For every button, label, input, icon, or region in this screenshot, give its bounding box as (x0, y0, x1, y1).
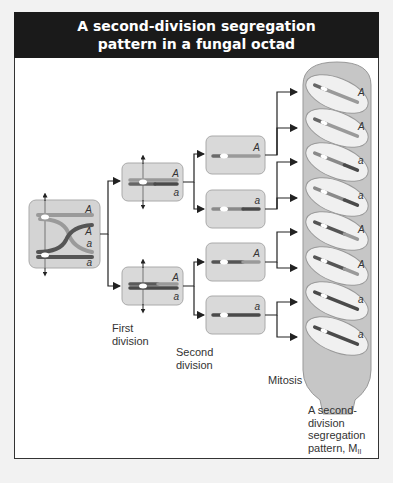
allele-label: A (252, 142, 260, 153)
allele-label: a (173, 291, 179, 302)
spore-allele-label: a (358, 155, 364, 166)
allele-label: a (254, 195, 260, 206)
allele-label: A (252, 248, 260, 259)
first-division-label: First division (112, 322, 149, 347)
spore-allele-label: A (357, 259, 365, 270)
spore-allele-label: a (358, 190, 364, 201)
spore-allele-label: A (357, 87, 365, 98)
allele-label: a (254, 301, 260, 312)
allele-label: a (173, 187, 179, 198)
label-line: division (176, 359, 213, 372)
label-line: division (308, 417, 366, 430)
connector-lines (183, 154, 204, 315)
label-text: pattern, M (308, 442, 358, 454)
second-division-cell-3: A (206, 243, 265, 281)
connector-lines (100, 181, 120, 286)
result-label: A second- division segregation pattern, … (308, 404, 366, 458)
allele-label: a (86, 257, 92, 268)
allele-label: a (86, 238, 92, 249)
mitosis-label: Mitosis (268, 374, 302, 387)
second-division-cell-4: a (206, 296, 265, 334)
second-division-cell-2: a (206, 190, 265, 228)
subscript: II (358, 448, 362, 455)
label-line: A second- (308, 404, 366, 417)
first-division-cell-2: A a (122, 261, 183, 311)
first-division-cell-1: A a (122, 157, 183, 207)
allele-label: A (171, 272, 179, 283)
second-division-cell-1: A (206, 136, 265, 174)
label-line: division (112, 335, 149, 348)
spore-allele-label: a (358, 329, 364, 340)
spore-allele-label: a (358, 294, 364, 305)
allele-label: A (171, 168, 179, 179)
connector-lines (265, 92, 297, 337)
allele-label: A (84, 204, 92, 215)
allele-label: A (84, 226, 92, 237)
label-line: pattern, MII (308, 442, 366, 459)
spore-allele-label: A (357, 224, 365, 235)
label-line: First (112, 322, 149, 335)
meiosis-cell: A A a a (29, 195, 100, 274)
second-division-label: Second division (176, 346, 213, 371)
label-line: segregation (308, 429, 366, 442)
label-line: Second (176, 346, 213, 359)
spore-allele-label: A (357, 121, 365, 132)
